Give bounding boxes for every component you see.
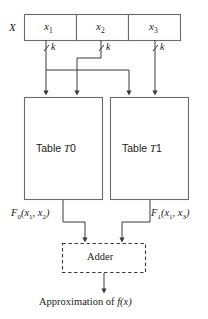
input-cell-x2-sub: 2 — [101, 26, 105, 35]
result-args: (x) — [120, 296, 132, 307]
input-cell-x1-sub: 1 — [49, 26, 53, 35]
adder-label: Adder — [87, 252, 113, 263]
output-label-f1: F1(x1, x3) — [151, 208, 190, 221]
result-prefix: Approximation of — [39, 296, 117, 307]
input-cell-x3: x3 — [149, 21, 158, 35]
result-caption: Approximation of f(x) — [39, 297, 132, 308]
bus-tap-label-x1: k — [51, 42, 55, 52]
input-cell-x2: x2 — [96, 21, 105, 35]
table-label-t0: Table T0 — [36, 143, 76, 155]
bus-tap-label-x3: k — [160, 42, 164, 52]
input-cell-x1: x1 — [44, 21, 53, 35]
input-register-name: X — [9, 22, 16, 33]
table-t0-index: 0 — [70, 142, 76, 154]
table-t1-index: 1 — [156, 142, 162, 154]
wire-f0 — [63, 200, 85, 240]
output-label-f0: F0(x1, x2) — [11, 208, 50, 221]
table-t0-prefix: Table — [36, 142, 64, 154]
input-cell-x3-sub: 3 — [154, 26, 158, 35]
figure-block-diagram: X x1 x2 x3 k k k Table T0 Table T1 F0(x1… — [0, 0, 208, 319]
f0-close: ) — [46, 207, 50, 218]
table-label-t1: Table T1 — [122, 143, 162, 155]
wire-x2 — [77, 40, 101, 93]
wire-f1 — [122, 200, 150, 240]
bus-tap-label-x2: k — [106, 42, 110, 52]
table-t1-prefix: Table — [122, 142, 150, 154]
f1-close: ) — [186, 207, 190, 218]
diagram-canvas — [0, 0, 208, 319]
wire-x1 — [46, 40, 129, 93]
